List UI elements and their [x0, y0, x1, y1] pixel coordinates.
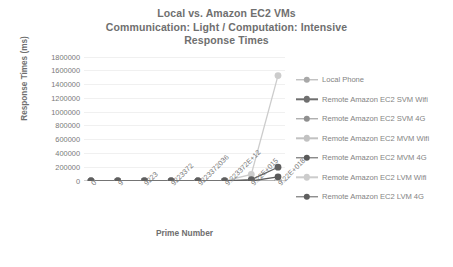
y-tick-label: 1600000 — [51, 66, 80, 75]
y-tick-label: 400000 — [55, 148, 80, 157]
y-axis-tick-labels: 1800000160000014000001200000100000080000… — [27, 50, 80, 182]
legend-item-4[interactable]: Remote Amazon EC2 MVM 4G — [296, 148, 453, 168]
legend-label: Remote Amazon EC2 SVM 4G — [322, 114, 425, 123]
series-canvas — [84, 57, 285, 181]
y-tick-label: 1800000 — [51, 52, 80, 61]
legend-marker-icon — [296, 94, 318, 104]
y-tick-label: 600000 — [55, 135, 80, 144]
y-tick-label: 200000 — [55, 162, 80, 171]
legend-label: Local Phone — [322, 75, 364, 84]
chart-legend: Local PhoneRemote Amazon EC2 SVM WifiRem… — [296, 70, 453, 207]
legend-marker-icon — [296, 133, 318, 143]
plot-area — [84, 57, 285, 181]
legend-item-3[interactable]: Remote Amazon EC2 MVM Wifi — [296, 129, 453, 149]
legend-label: Remote Amazon EC2 SVM Wifi — [322, 95, 428, 104]
x-axis-title: Prime Number — [84, 228, 285, 238]
x-axis-tick-labels: 099223922337292233720369.223372E+129.22E… — [84, 181, 285, 221]
y-tick-label: 1400000 — [51, 80, 80, 89]
legend-marker-icon — [296, 192, 318, 202]
legend-label: Remote Amazon EC2 MVM 4G — [322, 153, 427, 162]
legend-marker-icon — [296, 172, 318, 182]
legend-label: Remote Amazon EC2 LVM 4G — [322, 192, 424, 201]
chart-root: Local vs. Amazon EC2 VMs Communication: … — [0, 0, 453, 267]
legend-item-6[interactable]: Remote Amazon EC2 LVM 4G — [296, 187, 453, 207]
y-tick-label: 800000 — [55, 121, 80, 130]
legend-marker-icon — [296, 153, 318, 163]
legend-item-1[interactable]: Remote Amazon EC2 SVM Wifi — [296, 90, 453, 110]
legend-marker-icon — [296, 114, 318, 124]
legend-item-2[interactable]: Remote Amazon EC2 SVM 4G — [296, 109, 453, 129]
legend-label: Remote Amazon EC2 MVM Wifi — [322, 134, 429, 143]
legend-label: Remote Amazon EC2 LVM Wifi — [322, 173, 426, 182]
legend-marker-icon — [296, 75, 318, 85]
y-tick-label: 1000000 — [51, 107, 80, 116]
data-point — [275, 72, 282, 79]
y-tick-label: 1200000 — [51, 93, 80, 102]
legend-item-0[interactable]: Local Phone — [296, 70, 453, 90]
y-tick-label: 0 — [76, 176, 80, 185]
legend-item-5[interactable]: Remote Amazon EC2 LVM Wifi — [296, 168, 453, 188]
